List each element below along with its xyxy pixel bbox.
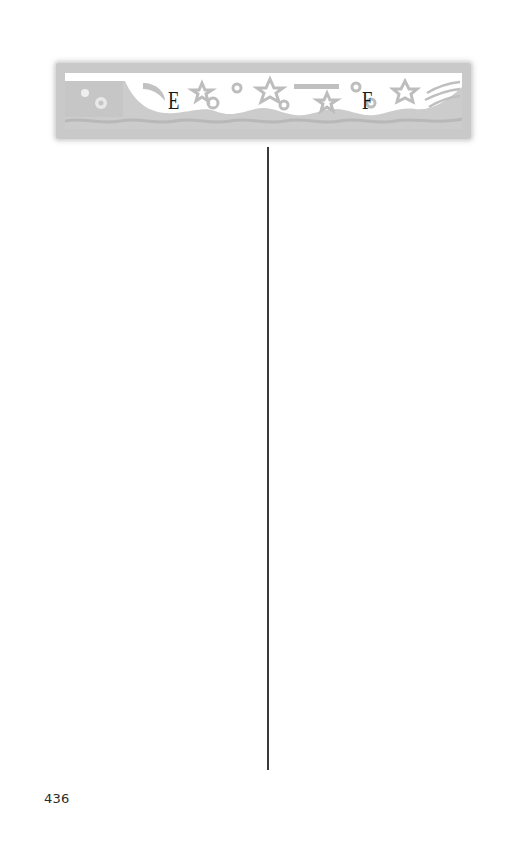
dictionary-page: E F 436 bbox=[0, 0, 517, 852]
column-divider bbox=[267, 147, 269, 770]
banner-inner-panel: E F bbox=[65, 73, 462, 129]
page-number: 436 bbox=[44, 791, 69, 806]
section-letter-right: F bbox=[362, 88, 372, 114]
decorative-ornament-icon bbox=[65, 73, 462, 129]
section-letter-left: E bbox=[168, 88, 179, 114]
section-header-banner: E F bbox=[56, 63, 471, 139]
